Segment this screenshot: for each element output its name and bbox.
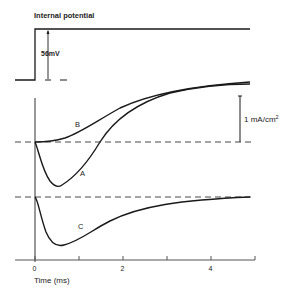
- arrow-head-up-icon: [47, 30, 50, 34]
- internal-potential-label: Internal potential: [34, 11, 94, 20]
- curve-b: [35, 82, 250, 142]
- x-axis-ticks: [35, 256, 255, 260]
- x-tick-label-4: 4: [209, 265, 213, 272]
- membrane-current-diagram: Internal potential 56mV B A C 1 mA/cm2: [0, 0, 298, 295]
- step-amplitude-label: 56mV: [41, 50, 60, 57]
- x-tick-label-2: 2: [121, 265, 125, 272]
- curve-c-label: C: [78, 222, 84, 231]
- diagram: Internal potential 56mV B A C 1 mA/cm2: [0, 0, 298, 295]
- scale-bar-label: 1 mA/cm2: [244, 114, 279, 124]
- curve-b-label: B: [75, 120, 80, 129]
- curve-c: [35, 197, 250, 246]
- x-axis-title: Time (ms): [34, 276, 70, 285]
- curve-a-label: A: [80, 169, 85, 178]
- x-tick-label-0: 0: [33, 265, 37, 272]
